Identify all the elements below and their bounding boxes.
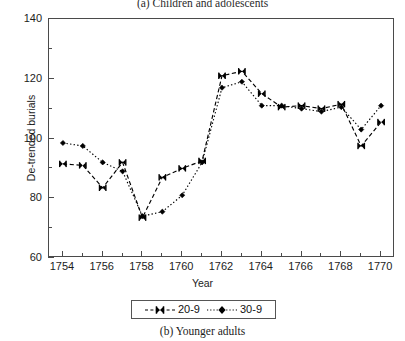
x-tick-major: [340, 251, 341, 257]
x-tick-minor: [161, 253, 162, 257]
plot-area: [48, 18, 394, 257]
data-point-marker: [120, 169, 125, 174]
x-tick-label: 1768: [318, 261, 362, 272]
legend-swatch-bowtie-x-icon: [145, 304, 175, 316]
x-tick-label: 1754: [40, 261, 84, 272]
data-point-marker: [60, 140, 65, 145]
x-tick-minor: [360, 253, 361, 257]
x-tick-major: [102, 251, 103, 257]
y-tick-major: [48, 78, 54, 79]
x-tick-minor: [281, 253, 282, 257]
x-tick-minor: [122, 253, 123, 257]
data-point-marker: [258, 90, 266, 96]
data-point-marker: [79, 162, 87, 168]
y-tick-major: [48, 197, 54, 198]
y-tick-minor: [48, 167, 52, 168]
data-point-marker: [158, 174, 166, 180]
figure-caption-bottom: (b) Younger adults: [0, 325, 405, 337]
data-point-marker: [239, 79, 244, 84]
data-point-marker: [180, 193, 185, 198]
legend-swatch-diamond-icon: [207, 304, 237, 316]
x-tick-minor: [320, 253, 321, 257]
x-tick-minor: [241, 253, 242, 257]
x-tick-major: [301, 251, 302, 257]
x-tick-major: [261, 251, 262, 257]
y-tick-minor: [48, 227, 52, 228]
chart-svg: [49, 19, 395, 258]
x-tick-label: 1760: [159, 261, 203, 272]
data-point-marker: [377, 119, 385, 125]
y-tick-major: [48, 138, 54, 139]
legend-item-1[interactable]: 30-9: [207, 304, 262, 316]
legend-label-1: 30-9: [240, 304, 262, 315]
series-20-9: [59, 68, 385, 221]
y-tick-label: 80: [16, 192, 42, 202]
y-tick-label: 60: [16, 252, 42, 262]
x-tick-major: [181, 251, 182, 257]
chart-legend: 20-9 30-9: [131, 300, 276, 319]
data-point-marker: [99, 185, 107, 191]
y-tick-label: 120: [16, 73, 42, 83]
series-30-9: [60, 79, 383, 219]
y-tick-major: [48, 257, 54, 258]
data-point-marker: [357, 143, 365, 149]
y-tick-minor: [48, 108, 52, 109]
x-tick-minor: [201, 253, 202, 257]
series-line: [63, 82, 381, 216]
x-tick-label: 1758: [119, 261, 163, 272]
y-tick-label: 100: [16, 133, 42, 143]
data-point-marker: [378, 103, 383, 108]
x-tick-label: 1756: [80, 261, 124, 272]
data-point-marker: [160, 209, 165, 214]
data-point-marker: [178, 165, 186, 171]
x-tick-major: [221, 251, 222, 257]
series-line: [63, 71, 381, 217]
y-tick-minor: [48, 48, 52, 49]
x-tick-minor: [82, 253, 83, 257]
x-axis-title: Year: [0, 277, 405, 289]
y-tick-label: 140: [16, 13, 42, 23]
legend-item-0[interactable]: 20-9: [145, 304, 200, 316]
chart-figure: (a) Children and adolescents De-trended …: [0, 0, 405, 341]
x-tick-label: 1764: [239, 261, 283, 272]
legend-label-0: 20-9: [178, 304, 200, 315]
x-tick-major: [62, 251, 63, 257]
x-tick-major: [141, 251, 142, 257]
figure-caption-top: (a) Children and adolescents: [0, 0, 405, 10]
x-tick-major: [380, 251, 381, 257]
x-tick-label: 1762: [199, 261, 243, 272]
x-tick-label: 1766: [279, 261, 323, 272]
data-point-marker: [119, 159, 127, 165]
y-tick-major: [48, 18, 54, 19]
data-point-marker: [238, 68, 246, 74]
x-tick-label: 1770: [358, 261, 402, 272]
data-point-marker: [59, 161, 67, 167]
